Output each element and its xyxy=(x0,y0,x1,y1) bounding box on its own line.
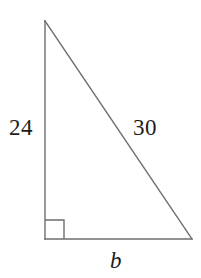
horizontal-leg-label: b xyxy=(110,249,122,272)
hypotenuse-label: 30 xyxy=(133,116,157,139)
vertical-leg-label: 24 xyxy=(9,116,33,139)
